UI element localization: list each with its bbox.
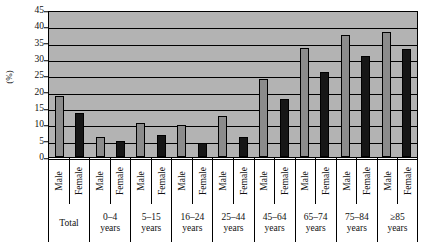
- bar-slot: [110, 12, 130, 157]
- sex-label: Female: [321, 167, 331, 195]
- bar-slot: [335, 12, 355, 157]
- axis-cell-female: Female: [233, 158, 254, 204]
- axis-cell-male: Male: [89, 158, 110, 204]
- sex-label: Male: [383, 171, 393, 191]
- bar-slot: [131, 12, 151, 157]
- bar-total-female[interactable]: [75, 113, 84, 157]
- sex-label: Female: [115, 167, 125, 195]
- group-cell-45-64-years: 45–64years: [254, 204, 295, 242]
- bar-series: [49, 12, 417, 157]
- bar-45-64-years-male[interactable]: [259, 79, 268, 157]
- group-label-line2: years: [182, 223, 202, 234]
- y-tick-20: 20: [35, 88, 45, 98]
- y-tick-40: 40: [35, 23, 45, 33]
- bar--85-years-male[interactable]: [382, 32, 391, 157]
- bar-slot: [233, 12, 253, 157]
- sex-label: Female: [239, 167, 249, 195]
- x-axis-sex-labels: MaleFemaleMaleFemaleMaleFemaleMaleFemale…: [48, 158, 418, 204]
- bar-slot: [253, 12, 273, 157]
- axis-cell-male: Male: [48, 158, 69, 204]
- bar-slot: [213, 12, 233, 157]
- group-label-line1: 65–74: [304, 212, 328, 223]
- bar-16-24-years-male[interactable]: [177, 125, 186, 157]
- group-label-line1: 25–44: [222, 212, 246, 223]
- group-label-line1: 45–64: [263, 212, 287, 223]
- bar-slot: [376, 12, 396, 157]
- y-tick-10: 10: [35, 121, 45, 131]
- bar-65-74-years-male[interactable]: [300, 48, 309, 157]
- group-cell-25-44-years: 25–44years: [212, 204, 253, 242]
- bar-75-84-years-male[interactable]: [341, 35, 350, 158]
- bar-slot: [315, 12, 335, 157]
- bar-slot: [69, 12, 89, 157]
- axis-cell-male: Male: [254, 158, 275, 204]
- group-label-line2: years: [387, 223, 407, 234]
- bar-5-15-years-male[interactable]: [136, 123, 145, 157]
- bar-25-44-years-male[interactable]: [218, 116, 227, 157]
- bar-75-84-years-female[interactable]: [361, 56, 370, 157]
- group-label-line2: Total: [59, 218, 78, 229]
- group-label-line1: 16–24: [181, 212, 205, 223]
- bar-5-15-years-female[interactable]: [157, 135, 166, 157]
- sex-label: Female: [198, 167, 208, 195]
- axis-cell-female: Female: [356, 158, 377, 204]
- y-tick-35: 35: [35, 39, 45, 49]
- y-tick-5: 5: [39, 137, 44, 147]
- y-tick-30: 30: [35, 55, 45, 65]
- axis-cell-female: Female: [397, 158, 418, 204]
- axis-cell-male: Male: [336, 158, 357, 204]
- bar-45-64-years-female[interactable]: [280, 99, 289, 157]
- bar-slot: [396, 12, 416, 157]
- y-tick-15: 15: [35, 104, 45, 114]
- bar--85-years-female[interactable]: [402, 49, 411, 157]
- sex-label: Male: [342, 171, 352, 191]
- group-cell-0-4-years: 0–4years: [89, 204, 130, 242]
- sex-label: Male: [95, 171, 105, 191]
- sex-label: Male: [218, 171, 228, 191]
- bar-0-4-years-female[interactable]: [116, 141, 125, 157]
- sex-label: Female: [280, 167, 290, 195]
- sex-label: Male: [54, 171, 64, 191]
- bar-65-74-years-female[interactable]: [320, 72, 329, 157]
- axis-cell-female: Female: [69, 158, 90, 204]
- bar-slot: [294, 12, 314, 157]
- sex-label: Female: [362, 167, 372, 195]
- axis-cell-female: Female: [274, 158, 295, 204]
- group-label-line2: years: [100, 223, 120, 234]
- bar-slot: [151, 12, 171, 157]
- axis-cell-male: Male: [171, 158, 192, 204]
- bar-total-male[interactable]: [55, 96, 64, 157]
- axis-cell-male: Male: [212, 158, 233, 204]
- axis-cell-female: Female: [315, 158, 336, 204]
- chart-figure: (%) 454035302520151050 MaleFemaleMaleFem…: [0, 0, 425, 244]
- group-label-line2: years: [347, 223, 367, 234]
- axis-cell-female: Female: [151, 158, 172, 204]
- y-tick-45: 45: [35, 6, 45, 16]
- y-axis-title: (%): [4, 70, 14, 84]
- axis-cell-male: Male: [130, 158, 151, 204]
- plot-area: [48, 11, 418, 158]
- group-label-line1: 75–84: [345, 212, 369, 223]
- sex-label: Male: [177, 171, 187, 191]
- bar-0-4-years-male[interactable]: [96, 137, 105, 157]
- group-cell-65-74-years: 65–74years: [295, 204, 336, 242]
- group-label-line2: years: [265, 223, 285, 234]
- bar-25-44-years-female[interactable]: [239, 137, 248, 157]
- axis-cell-male: Male: [377, 158, 398, 204]
- bar-slot: [49, 12, 69, 157]
- sex-label: Male: [259, 171, 269, 191]
- group-cell-total: Total: [48, 204, 89, 242]
- group-label-line1: 0–4: [103, 212, 117, 223]
- bar-slot: [90, 12, 110, 157]
- axis-cell-male: Male: [295, 158, 316, 204]
- group-label-line1: 5–15: [142, 212, 161, 223]
- bar-16-24-years-female[interactable]: [198, 143, 207, 157]
- sex-label: Male: [136, 171, 146, 191]
- axis-cell-female: Female: [192, 158, 213, 204]
- sex-label: Female: [403, 167, 413, 195]
- sex-label: Female: [74, 167, 84, 195]
- bar-slot: [172, 12, 192, 157]
- sex-label: Male: [300, 171, 310, 191]
- group-cell-5-15-years: 5–15years: [130, 204, 171, 242]
- y-tick-25: 25: [35, 72, 45, 82]
